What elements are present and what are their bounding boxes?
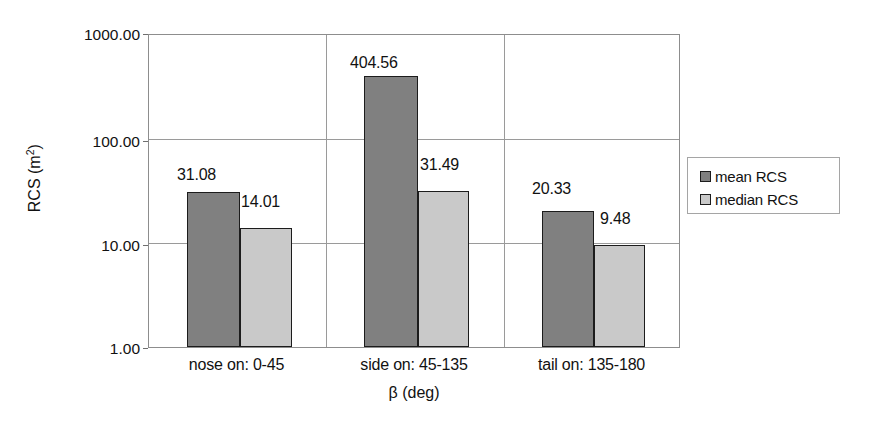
chart-legend: mean RCS median RCS xyxy=(687,157,840,214)
bar-mean-side-on[interactable] xyxy=(364,76,418,347)
x-category-label-tail-on: tail on: 135-180 xyxy=(503,356,680,374)
data-label-mean-nose-on: 31.08 xyxy=(177,166,216,184)
bar-mean-nose-on[interactable] xyxy=(187,192,240,347)
data-label-median-tail-on: 9.48 xyxy=(600,210,630,228)
y-axis-title-text: RCS (m xyxy=(26,155,43,212)
bar-median-nose-on[interactable] xyxy=(240,228,292,347)
legend-label-median-rcs: median RCS xyxy=(715,191,798,208)
y-tick-label-10: 10.00 xyxy=(34,237,140,255)
rcs-bar-chart: 1000.00 100.00 10.00 1.00 RCS (m2) 31.08… xyxy=(0,0,878,428)
bar-mean-tail-on[interactable] xyxy=(542,211,594,347)
y-tick-mark-1 xyxy=(143,348,148,349)
x-axis-title: β (deg) xyxy=(148,384,680,402)
legend-swatch-mean-icon xyxy=(700,171,711,182)
legend-swatch-median-icon xyxy=(700,194,711,205)
y-axis-title: RCS (m2) xyxy=(24,108,44,248)
y-tick-label-100: 100.00 xyxy=(34,133,140,151)
x-category-label-side-on: side on: 45-135 xyxy=(325,356,503,374)
legend-item-mean-rcs[interactable]: mean RCS xyxy=(700,168,787,184)
bar-median-tail-on[interactable] xyxy=(594,245,645,347)
y-axis-title-superscript: 2 xyxy=(24,149,36,155)
y-tick-label-1: 1.00 xyxy=(34,340,140,358)
legend-item-median-rcs[interactable]: median RCS xyxy=(700,191,798,207)
data-label-mean-tail-on: 20.33 xyxy=(532,180,571,198)
bar-median-side-on[interactable] xyxy=(418,191,469,347)
data-label-median-nose-on: 14.01 xyxy=(241,193,280,211)
y-tick-label-1000: 1000.00 xyxy=(34,26,140,44)
data-label-mean-side-on: 404.56 xyxy=(350,54,398,72)
x-category-label-nose-on: nose on: 0-45 xyxy=(148,356,325,374)
plot-area xyxy=(148,34,680,348)
category-divider-2 xyxy=(504,35,505,347)
y-axis-title-close: ) xyxy=(26,144,43,149)
category-divider-1 xyxy=(326,35,327,347)
legend-label-mean-rcs: mean RCS xyxy=(715,168,787,185)
data-label-median-side-on: 31.49 xyxy=(420,156,459,174)
